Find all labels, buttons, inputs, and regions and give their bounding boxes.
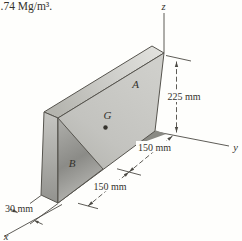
height-dimension-label: 225 mm	[167, 91, 200, 102]
figure-page: .74 Mg/m³. z y x	[0, 0, 242, 241]
centroid-label: G	[104, 109, 112, 121]
segment-a-label: A	[131, 78, 139, 90]
extension-line-top	[166, 56, 191, 62]
segment-b-label: B	[69, 157, 76, 169]
arrow-upright-icon	[167, 136, 172, 141]
thickness-dimension-label: 30 mm	[5, 203, 33, 214]
arrow-down-icon	[175, 127, 178, 133]
extension-line-front	[30, 204, 58, 225]
z-axis-label: z	[160, 1, 165, 12]
lower-width-dimension-label: 150 mm	[93, 181, 126, 192]
caption-density-fragment: .74 Mg/m³.	[1, 0, 53, 13]
upper-width-dimension-label: 150 mm	[138, 142, 171, 153]
plate-left-face	[41, 112, 58, 203]
arrow-up-icon	[175, 62, 178, 68]
centroid-dot	[103, 125, 107, 129]
plate-solid	[41, 46, 164, 203]
plate-diagram: .74 Mg/m³. z y x	[0, 0, 242, 241]
arrow-left-icon	[35, 221, 39, 224]
y-axis-label: y	[232, 142, 238, 153]
x-axis-label: x	[3, 231, 9, 241]
